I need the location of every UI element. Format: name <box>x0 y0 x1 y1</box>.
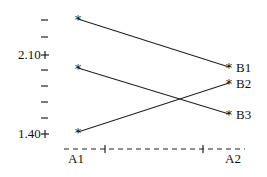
y-tick-label-bottom: 1.40 <box>18 126 41 141</box>
series-label-b2: B2 <box>236 76 251 91</box>
series-label-b3: B3 <box>236 107 251 122</box>
series-lines <box>78 19 229 132</box>
markers: * * * * * * <box>75 12 233 140</box>
star-marker-icon: * <box>226 76 233 91</box>
star-marker-icon: * <box>226 60 233 75</box>
interaction-plot: 2.10 1.40 A1 A2 * * * * * * B1 B2 B3 <box>0 0 267 177</box>
series-label-b1: B1 <box>236 60 251 75</box>
star-marker-icon: * <box>226 107 233 122</box>
star-marker-icon: * <box>75 12 82 27</box>
star-marker-icon: * <box>75 125 82 140</box>
x-axis <box>64 145 245 153</box>
x-tick-label-a1: A1 <box>68 151 84 166</box>
star-marker-icon: * <box>75 61 82 76</box>
series-line-b1 <box>78 19 229 67</box>
x-tick-label-a2: A2 <box>225 151 241 166</box>
y-tick-label-top: 2.10 <box>18 47 41 62</box>
y-axis <box>41 20 49 138</box>
